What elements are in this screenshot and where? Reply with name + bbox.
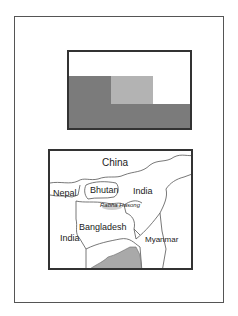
label-myanmar: Myanmar bbox=[145, 235, 178, 244]
region-map: China Nepal Bhutan India Rabha Hasong Ba… bbox=[48, 149, 193, 270]
flag-dark-block-left bbox=[69, 76, 111, 130]
flag-image bbox=[67, 50, 192, 130]
label-nepal: Nepal bbox=[53, 188, 77, 198]
label-china: China bbox=[102, 157, 128, 168]
label-india-west: India bbox=[60, 233, 80, 243]
label-rabha-hasong: Rabha Hasong bbox=[100, 202, 140, 208]
label-bangladesh: Bangladesh bbox=[79, 222, 127, 232]
label-india-east: India bbox=[133, 186, 153, 196]
label-bhutan: Bhutan bbox=[90, 185, 119, 195]
map-borders bbox=[50, 151, 193, 270]
flag-dark-block-bottom bbox=[111, 104, 192, 130]
flag-light-block bbox=[111, 76, 153, 104]
